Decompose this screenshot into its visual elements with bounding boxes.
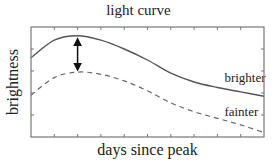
brighter-curve [31, 36, 264, 97]
fainter-label: fainter [224, 104, 259, 119]
brighter-label: brighter [224, 70, 266, 85]
plot-area: brighter fainter [0, 0, 277, 166]
